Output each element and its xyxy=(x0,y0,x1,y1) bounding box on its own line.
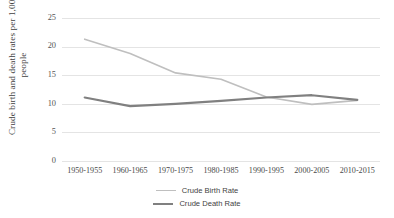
line-chart: Crude birth and death rates per 1,000 pe… xyxy=(0,0,394,218)
legend-item[interactable]: Crude Birth Rate xyxy=(0,184,394,197)
plot-area xyxy=(62,18,380,161)
y-axis-title-line1: Crude birth and death rates per 1,000 xyxy=(7,0,17,135)
y-axis-title-line2: people xyxy=(18,52,28,77)
x-axis-tick-label: 1980-1985 xyxy=(198,165,243,179)
x-axis-tick-label: 1950-1955 xyxy=(62,165,107,179)
chart-legend: Crude Birth RateCrude Death Rate xyxy=(0,184,394,210)
y-axis-tick-label: 15 xyxy=(32,71,56,79)
y-axis-tick-label: 20 xyxy=(32,42,56,50)
legend-item-label: Crude Death Rate xyxy=(179,199,240,208)
series-container xyxy=(62,18,380,161)
x-axis-tick-label: 1990-1995 xyxy=(244,165,289,179)
y-axis-tick-label: 25 xyxy=(32,14,56,22)
y-axis-tick-label: 10 xyxy=(32,100,56,108)
legend-item[interactable]: Crude Death Rate xyxy=(0,197,394,210)
gridline xyxy=(62,161,380,162)
y-axis-tick-label: 5 xyxy=(32,128,56,136)
x-axis-tick-label: 1960-1965 xyxy=(107,165,152,179)
x-axis-tick-label: 2010-2015 xyxy=(335,165,380,179)
x-axis-tick-label: 1970-1975 xyxy=(153,165,198,179)
x-axis-tick-label: 2000-2005 xyxy=(289,165,334,179)
y-axis-tick-label: 0 xyxy=(32,157,56,165)
legend-item-label: Crude Birth Rate xyxy=(182,186,239,195)
legend-line-swatch xyxy=(153,203,173,205)
x-axis-tick-labels: 1950-19551960-19651970-19751980-19851990… xyxy=(62,165,380,179)
legend-line-swatch xyxy=(156,190,176,191)
